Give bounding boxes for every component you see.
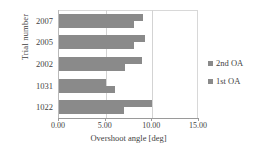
bar-groups (59, 10, 198, 118)
plot-area (58, 10, 198, 118)
x-axis-tick-label: 5.00 (98, 121, 112, 130)
bar-chart: Trial number 2007 2005 2002 1031 1022 (0, 0, 267, 153)
bar-1st-oa-2007 (59, 21, 134, 28)
x-axis-tick-label: 0.00 (51, 121, 65, 130)
legend: 2nd OA 1st OA (208, 58, 243, 86)
bar-group-1031 (59, 75, 198, 97)
bar-1st-oa-2005 (59, 42, 134, 49)
bar-1st-oa-1031 (59, 86, 115, 93)
bar-2nd-oa-1022 (59, 100, 152, 107)
bar-2nd-oa-2005 (59, 35, 145, 42)
y-axis-tick-label: 1031 (22, 75, 56, 97)
legend-swatch-icon (208, 79, 213, 84)
y-axis-tick-label: 2002 (22, 53, 56, 75)
bar-group-2005 (59, 32, 198, 54)
x-axis-tick-label: 15.00 (189, 121, 207, 130)
x-axis-tick-labels: 0.00 5.00 10.00 15.00 (58, 121, 198, 133)
legend-swatch-icon (208, 61, 213, 66)
bar-group-2007 (59, 10, 198, 32)
bar-1st-oa-1022 (59, 107, 124, 114)
legend-label: 2nd OA (216, 58, 243, 68)
x-axis-line (58, 118, 199, 119)
legend-item-2nd-oa: 2nd OA (208, 58, 243, 68)
bar-group-2002 (59, 53, 198, 75)
bar-group-1022 (59, 96, 198, 118)
bar-1st-oa-2002 (59, 64, 125, 71)
legend-label: 1st OA (216, 76, 240, 86)
bar-2nd-oa-2002 (59, 57, 142, 64)
x-axis-tick-label: 10.00 (142, 121, 160, 130)
x-axis-title: Overshoot angle [deg] (58, 133, 199, 143)
y-axis-tick-label: 2007 (22, 10, 56, 32)
y-axis-tick-labels: 2007 2005 2002 1031 1022 (22, 10, 56, 118)
bar-2nd-oa-1031 (59, 79, 106, 86)
y-axis-tick-label: 1022 (22, 96, 56, 118)
legend-item-1st-oa: 1st OA (208, 76, 243, 86)
y-axis-tick-label: 2005 (22, 32, 56, 54)
bar-2nd-oa-2007 (59, 14, 143, 21)
